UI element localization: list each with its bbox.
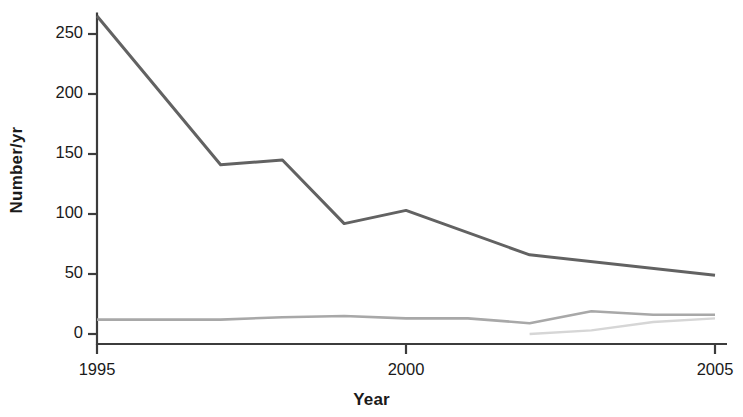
y-tick-label: 100 [23, 203, 83, 222]
line-chart: Number/yr Year 0501001502002501995200020… [0, 0, 743, 417]
axis-spine [97, 12, 727, 344]
x-tick-label: 2000 [366, 360, 446, 379]
chart-plot-area [0, 0, 743, 417]
y-tick-label: 250 [23, 23, 83, 42]
x-axis-title: Year [0, 390, 743, 410]
y-tick-label: 150 [23, 143, 83, 162]
y-axis-title: Number/yr [7, 125, 27, 215]
series-line-light-gray-series [530, 318, 715, 334]
y-tick-label: 200 [23, 83, 83, 102]
x-tick-label: 1995 [57, 360, 137, 379]
series-line-dark-series [97, 16, 715, 275]
series-line-mid-gray-series [97, 311, 715, 323]
y-tick-label: 50 [23, 263, 83, 282]
x-tick-label: 2005 [675, 360, 743, 379]
y-tick-label: 0 [23, 323, 83, 342]
